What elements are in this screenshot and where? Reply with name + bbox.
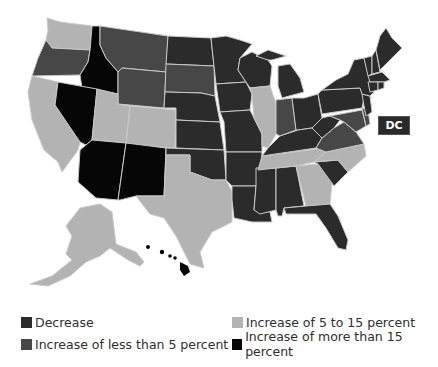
legend-label: Increase of more than 15 percent — [245, 329, 438, 359]
state-fl — [284, 204, 348, 250]
state-nm — [118, 143, 166, 200]
legend-item-increase-lt5: Increase of less than 5 percent — [21, 334, 228, 354]
state-ks — [176, 120, 224, 150]
legend-right: Increase of 5 to 15 percent Increase of … — [232, 312, 438, 356]
legend-label: Increase of 5 to 15 percent — [246, 315, 415, 330]
swatch-increase-5to15 — [232, 317, 243, 328]
dc-label: DC — [378, 116, 410, 135]
swatch-increase-lt5 — [21, 339, 32, 350]
state-ia — [216, 82, 252, 112]
legend-item-decrease: Decrease — [21, 312, 228, 332]
swatch-decrease — [21, 317, 32, 328]
legend-item-increase-gt15: Increase of more than 15 percent — [232, 334, 438, 354]
state-co — [126, 106, 176, 148]
state-ms — [254, 168, 276, 214]
state-ak — [30, 204, 144, 286]
legend-left: Decrease Increase of less than 5 percent — [21, 312, 228, 356]
state-mi-lower — [278, 64, 304, 98]
state-sd — [165, 64, 215, 96]
state-ct — [368, 82, 378, 92]
state-me — [376, 28, 402, 70]
state-nd — [166, 36, 214, 66]
state-wy — [118, 68, 166, 108]
us-choropleth-map — [0, 0, 438, 300]
swatch-increase-gt15 — [232, 339, 242, 350]
legend-label: Increase of less than 5 percent — [35, 337, 228, 352]
state-ri — [378, 82, 384, 90]
state-wa — [46, 18, 92, 50]
state-pa — [318, 88, 364, 114]
legend-label: Decrease — [35, 315, 94, 330]
